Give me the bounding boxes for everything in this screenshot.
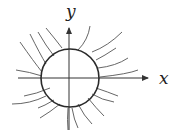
y-axis-label: y — [65, 1, 76, 21]
x-axis-label: x — [159, 68, 169, 88]
diagram-canvas: x y — [0, 0, 180, 138]
